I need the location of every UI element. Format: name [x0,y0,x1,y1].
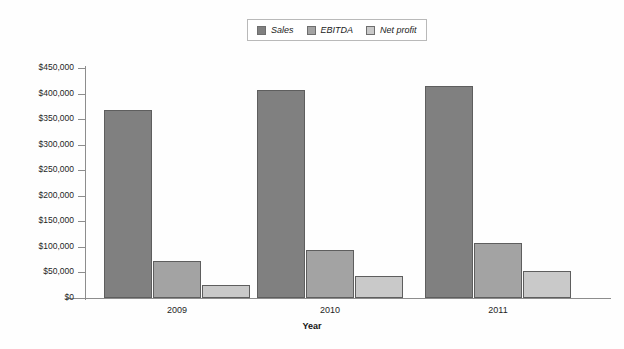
bar [257,90,305,298]
bar [306,250,354,298]
bar-chart-figure: SalesEBITDANet profit $0$50,000$100,000$… [0,0,624,349]
legend-swatch-icon [307,26,316,35]
bar [474,243,522,298]
x-axis-line [66,298,611,299]
legend-item-label: Net profit [380,26,417,35]
y-axis-tick-label: $300,000 [0,140,74,149]
y-axis-tick [78,298,85,299]
y-axis-tick [78,196,85,197]
y-axis-tick [78,119,85,120]
x-axis-category-label: 2011 [458,306,538,315]
legend-item: EBITDA [307,26,354,35]
y-axis-tick-label: $150,000 [0,216,74,225]
legend-item-label: Sales [271,26,294,35]
y-axis-tick-label: $350,000 [0,114,74,123]
y-axis-tick-label: $200,000 [0,191,74,200]
y-axis-tick [78,68,85,69]
plot-area [85,68,605,298]
y-axis-tick [78,221,85,222]
y-axis-tick-label: $250,000 [0,165,74,174]
legend-swatch-icon [366,26,375,35]
x-axis-category-label: 2009 [137,306,217,315]
y-axis-tick-label: $0 [0,293,74,302]
y-axis-tick [78,94,85,95]
legend-swatch-icon [257,26,266,35]
y-axis-tick-label: $450,000 [0,63,74,72]
bar [523,271,571,298]
y-axis-tick-label: $100,000 [0,242,74,251]
y-axis-tick [78,272,85,273]
bar [202,285,250,298]
legend-item: Sales [257,26,294,35]
bar [355,276,403,298]
bar [425,86,473,298]
y-axis-tick [78,145,85,146]
bar [104,110,152,298]
x-axis-title: Year [0,322,624,331]
bar [153,261,201,298]
y-axis-tick-label: $50,000 [0,267,74,276]
x-axis-category-label: 2010 [290,306,370,315]
chart-legend: SalesEBITDANet profit [247,19,427,41]
y-axis-tick-label: $400,000 [0,89,74,98]
legend-item: Net profit [366,26,417,35]
y-axis-tick [78,247,85,248]
legend-item-label: EBITDA [321,26,354,35]
y-axis-tick [78,170,85,171]
